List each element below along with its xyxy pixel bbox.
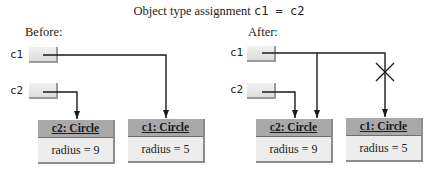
before-arrow-c1 <box>43 55 166 118</box>
after-arrow-c1-old <box>262 53 385 117</box>
after-arrow-c2 <box>262 92 295 118</box>
reference-arrows <box>0 0 438 169</box>
before-arrow-c2 <box>43 92 77 119</box>
